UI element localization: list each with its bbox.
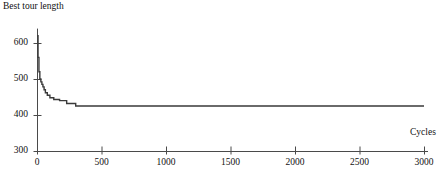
x-tick-label: 2000	[275, 158, 315, 168]
y-tick-label: 500	[2, 74, 28, 84]
x-tick-label: 3000	[404, 158, 444, 168]
x-tick-label: 1500	[211, 158, 251, 168]
x-tick-label: 2500	[340, 158, 380, 168]
chart-container: Best tour length Cycles 300400500600 050…	[0, 0, 447, 174]
y-tick-label: 600	[2, 38, 28, 48]
plot-area	[0, 0, 447, 174]
x-tick-label: 1000	[146, 158, 186, 168]
x-tick-label: 0	[17, 158, 57, 168]
y-tick-label: 300	[2, 146, 28, 156]
x-tick-label: 500	[82, 158, 122, 168]
series-line	[37, 36, 424, 106]
y-tick-label: 400	[2, 110, 28, 120]
